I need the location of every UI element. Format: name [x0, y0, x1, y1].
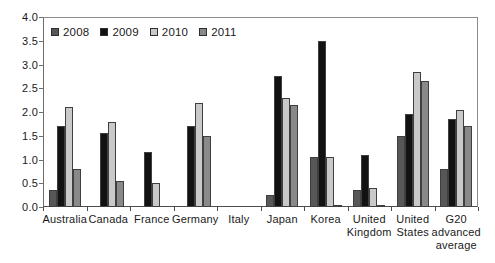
y-axis-tick [39, 112, 43, 113]
legend-swatch-icon [199, 28, 207, 36]
bar-2009-Germany [187, 126, 195, 207]
legend: 2008200920102011 [51, 26, 237, 38]
y-axis-label: 2.5 [14, 82, 38, 94]
bar-2010-G20 advanced average [456, 110, 464, 207]
bar-2008-United Kingdom [353, 190, 361, 207]
bar-2008-Australia [49, 190, 57, 207]
bar-2011-United States [421, 81, 429, 207]
x-axis-tick [174, 207, 175, 211]
y-axis-tick [39, 160, 43, 161]
bar-2011-Canada [116, 181, 124, 207]
legend-item-2010: 2010 [150, 26, 188, 38]
bar-2011-G20 advanced average [464, 126, 472, 207]
bar-2010-United States [413, 72, 421, 207]
x-axis-tick [391, 207, 392, 211]
bar-chart-figure: 2008200920102011 4.03.53.02.52.01.51.00.… [0, 0, 495, 263]
y-axis-tick [39, 17, 43, 18]
legend-swatch-icon [100, 28, 108, 36]
x-axis-tick [478, 207, 479, 211]
bar-2010-Canada [108, 122, 116, 208]
bar-2009-United Kingdom [361, 155, 369, 207]
bar-2011-Japan [290, 105, 298, 207]
bar-2010-Australia [65, 107, 73, 207]
x-axis-tick [348, 207, 349, 211]
y-axis-label: 1.0 [14, 154, 38, 166]
x-axis-tick [435, 207, 436, 211]
bar-2009-G20 advanced average [448, 119, 456, 207]
bar-2009-France [144, 152, 152, 207]
y-axis-label: 2.0 [14, 106, 38, 118]
legend-swatch-icon [51, 28, 59, 36]
x-axis-tick [130, 207, 131, 211]
x-axis-tick [217, 207, 218, 211]
bar-2008-United States [397, 136, 405, 207]
bar-2010-United Kingdom [369, 188, 377, 207]
bar-2008-G20 advanced average [440, 169, 448, 207]
legend-label: 2008 [63, 26, 89, 38]
x-axis-tick [261, 207, 262, 211]
bar-2009-Canada [100, 133, 108, 207]
legend-item-2011: 2011 [199, 26, 237, 38]
bar-2008-Japan [266, 195, 274, 207]
bar-2011-United Kingdom [377, 205, 385, 207]
bar-2010-Japan [282, 98, 290, 207]
bar-2010-Korea [326, 157, 334, 207]
category-label: G20 advanced average [425, 213, 487, 252]
x-axis-tick [43, 207, 44, 211]
legend-label: 2009 [112, 26, 138, 38]
legend-label: 2011 [211, 26, 237, 38]
y-axis-tick [39, 65, 43, 66]
bar-2011-Germany [203, 136, 211, 207]
y-axis-label: 0.0 [14, 201, 38, 213]
y-axis-label: 0.5 [14, 177, 38, 189]
y-axis-tick [39, 41, 43, 42]
y-axis-label: 3.5 [14, 35, 38, 47]
bar-2009-Korea [318, 41, 326, 207]
bar-2011-Korea [334, 205, 342, 207]
bar-2010-Germany [195, 103, 203, 208]
y-axis-label: 4.0 [14, 11, 38, 23]
x-axis-tick [87, 207, 88, 211]
legend-item-2008: 2008 [51, 26, 89, 38]
legend-item-2009: 2009 [100, 26, 138, 38]
legend-swatch-icon [150, 28, 158, 36]
bar-2008-Korea [310, 157, 318, 207]
x-axis-tick [304, 207, 305, 211]
bar-2009-Japan [274, 76, 282, 207]
y-axis-tick [39, 136, 43, 137]
bar-2011-Australia [73, 169, 81, 207]
y-axis-tick [39, 88, 43, 89]
legend-label: 2010 [162, 26, 188, 38]
y-axis-tick [39, 183, 43, 184]
bar-2009-Australia [57, 126, 65, 207]
bar-2009-United States [405, 114, 413, 207]
y-axis-label: 1.5 [14, 130, 38, 142]
bar-2010-France [152, 183, 160, 207]
y-axis-label: 3.0 [14, 59, 38, 71]
